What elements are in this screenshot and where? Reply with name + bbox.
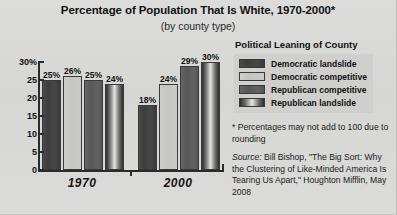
bar-value-label: 26% — [64, 66, 81, 76]
chart-page: Percentage of Population That Is White, … — [0, 0, 397, 215]
y-tick-mark — [38, 115, 44, 117]
bar-value-label: 29% — [181, 56, 198, 66]
legend-box: Democratic landslideDemocratic competiti… — [234, 54, 373, 113]
y-tick-label: 25 — [27, 75, 37, 85]
legend-item: Republican landslide — [239, 97, 368, 108]
notes-block: * Percentages may not add to 100 due to … — [232, 122, 392, 198]
y-tick-mark — [38, 61, 44, 63]
legend-item-label: Republican landslide — [271, 98, 356, 108]
legend-swatch-icon — [239, 85, 265, 94]
y-tick-mark — [38, 97, 44, 99]
x-axis-label-1970: 1970 — [40, 176, 124, 190]
x-axis-label-2000: 2000 — [136, 176, 220, 190]
y-tick-label: 10 — [27, 129, 37, 139]
y-tick-label: 0 — [32, 165, 37, 175]
bar-value-label: 18% — [139, 95, 156, 105]
y-tick-label: 20 — [27, 93, 37, 103]
x-axis-group-divider-tick — [130, 172, 132, 176]
legend-swatch-icon — [239, 98, 265, 107]
bar-value-label: 24% — [106, 74, 123, 84]
legend-item-label: Democratic landslide — [271, 59, 357, 69]
bar-value-label: 25% — [85, 70, 102, 80]
y-tick-label: 5 — [32, 147, 37, 157]
bar-group-1970: 25%26%25%24% — [42, 62, 126, 170]
legend-item: Democratic competitive — [239, 71, 368, 82]
bar: 26% — [63, 76, 82, 170]
bar: 24% — [159, 84, 178, 170]
legend: Political Leaning of County Democratic l… — [234, 39, 390, 113]
source-prefix: Source: — [232, 152, 262, 162]
chart-subtitle: (by county type) — [0, 20, 396, 32]
bar: 18% — [138, 105, 157, 170]
bar-value-label: 30% — [202, 52, 219, 62]
y-tick-mark — [38, 133, 44, 135]
y-tick-label: 30% — [19, 57, 37, 67]
chart-plot-area: 30%2520151050 25%26%25%24% 18%24%29%30% … — [10, 58, 225, 208]
y-tick-mark — [38, 169, 44, 171]
bar-value-label: 24% — [160, 74, 177, 84]
bar: 24% — [105, 84, 124, 170]
x-axis-endcap — [222, 164, 224, 172]
source-text: Source: Bill Bishop, "The Big Sort: Why … — [232, 152, 392, 198]
chart-title: Percentage of Population That Is White, … — [0, 4, 396, 16]
footnote-text: * Percentages may not add to 100 due to … — [232, 122, 392, 145]
legend-item-label: Republican competitive — [271, 85, 366, 95]
y-tick-mark — [38, 151, 44, 153]
y-tick-mark — [38, 79, 44, 81]
bars-container: 25%26%25%24% 18%24%29%30% — [40, 62, 222, 170]
y-axis-labels: 30%2520151050 — [10, 58, 37, 170]
legend-item: Democratic landslide — [239, 58, 368, 69]
legend-item-label: Democratic competitive — [271, 72, 367, 82]
bar: 29% — [180, 66, 199, 170]
legend-swatch-icon — [239, 59, 265, 68]
legend-title: Political Leaning of County — [234, 39, 390, 50]
legend-item: Republican competitive — [239, 84, 368, 95]
bar-value-label: 25% — [43, 70, 60, 80]
bar-group-2000: 18%24%29%30% — [138, 62, 222, 170]
bar: 30% — [201, 62, 220, 170]
bar: 25% — [42, 80, 61, 170]
legend-swatch-icon — [239, 72, 265, 81]
y-tick-label: 15 — [27, 111, 37, 121]
bar: 25% — [84, 80, 103, 170]
